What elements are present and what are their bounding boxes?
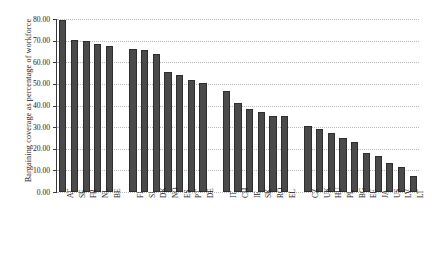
x-axis-tick-label: EL bbox=[288, 189, 297, 198]
x-axis-tick-label: LT bbox=[416, 190, 425, 198]
y-axis-tick-label: 20.00 bbox=[0, 144, 50, 153]
y-axis-tick-label: 10.00 bbox=[0, 166, 50, 175]
bar bbox=[141, 50, 148, 192]
bar bbox=[106, 46, 113, 192]
bar bbox=[153, 54, 160, 192]
x-axis-tick-label: FR bbox=[89, 189, 98, 198]
x-axis-tick-label: HU bbox=[334, 187, 343, 198]
bar-chart: Bargaining coverage as percentage of wor… bbox=[0, 0, 432, 269]
y-axis-tick-label: 70.00 bbox=[0, 36, 50, 45]
bar bbox=[199, 83, 206, 192]
x-axis-tick-label: PL bbox=[346, 189, 355, 198]
x-axis-tick-label: CZ bbox=[311, 189, 320, 198]
bar bbox=[258, 112, 265, 192]
bar bbox=[281, 116, 288, 192]
x-axis-tick-label: BE bbox=[113, 189, 122, 198]
x-axis-tick-label: NO bbox=[171, 187, 180, 198]
y-axis-tick-label: 80.00 bbox=[0, 15, 50, 24]
x-axis-tick-label: AT bbox=[66, 189, 75, 198]
x-axis-tick-label: PT bbox=[194, 189, 203, 198]
plot-area bbox=[57, 19, 419, 192]
y-axis-tick-label: 60.00 bbox=[0, 58, 50, 67]
bar bbox=[83, 41, 90, 192]
y-axis-tick-label: 50.00 bbox=[0, 79, 50, 88]
x-axis-tick-label: BG bbox=[358, 188, 367, 198]
x-axis-tick-label: SK bbox=[264, 189, 273, 198]
bar bbox=[339, 138, 346, 192]
bar bbox=[59, 20, 66, 192]
bar bbox=[176, 75, 183, 192]
bar bbox=[94, 44, 101, 192]
bar bbox=[246, 109, 253, 192]
bar bbox=[234, 103, 241, 192]
bar bbox=[304, 126, 311, 192]
x-axis-tick-label: IT bbox=[229, 191, 238, 198]
x-axis-tick-label: CH bbox=[241, 188, 250, 198]
y-axis-tick-label: 0.00 bbox=[0, 188, 50, 197]
y-axis-tick-labels: 80.0070.0060.0050.0040.0030.0020.0010.00… bbox=[0, 0, 54, 269]
x-axis-tick-label: DE bbox=[206, 188, 215, 198]
x-axis-tick-label: LV bbox=[404, 189, 413, 198]
x-axis-tick-label: RO bbox=[276, 188, 285, 198]
x-axis-tick-label: US bbox=[393, 189, 402, 198]
bar bbox=[351, 142, 358, 192]
bar bbox=[129, 49, 136, 192]
bar bbox=[328, 133, 335, 192]
bars-container bbox=[57, 19, 419, 192]
x-axis-tick-label: UK bbox=[323, 187, 332, 198]
x-axis-tick-label: EE bbox=[369, 189, 378, 198]
y-axis-tick-label: 30.00 bbox=[0, 123, 50, 132]
x-axis-tick-label: SE bbox=[78, 189, 87, 198]
x-axis-tick-label: DK bbox=[159, 187, 168, 198]
bar bbox=[269, 116, 276, 192]
bar bbox=[188, 80, 195, 192]
bar bbox=[316, 129, 323, 192]
x-axis-tick-label: FI bbox=[136, 191, 145, 198]
x-axis-tick-label: JA bbox=[381, 190, 390, 198]
x-axis-tick-labels: ATSEFRNLBEFISIDKNOESPTDEITCHIESKROELCZUK… bbox=[57, 196, 419, 266]
x-axis-tick-label: IE bbox=[253, 191, 262, 198]
x-axis-tick-label: ES bbox=[183, 189, 192, 198]
bar bbox=[375, 156, 382, 192]
bar bbox=[363, 153, 370, 192]
y-axis-tick-label: 40.00 bbox=[0, 101, 50, 110]
bar bbox=[71, 40, 78, 192]
bar bbox=[164, 72, 171, 192]
x-axis-tick-label: SI bbox=[148, 191, 157, 198]
x-axis-tick-label: NL bbox=[101, 188, 110, 198]
bar bbox=[223, 91, 230, 192]
